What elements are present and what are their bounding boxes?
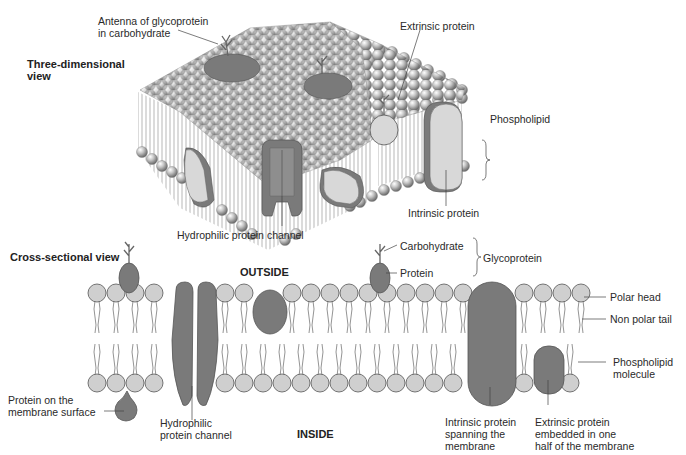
label-inside: INSIDE (297, 428, 334, 440)
label-extrinsic-cross-line2: embedded in one (535, 428, 616, 440)
cross-section-membrane (88, 238, 606, 421)
title-three-dimensional-line2: view (27, 70, 51, 82)
label-extrinsic-protein-3d: Extrinsic protein (400, 20, 475, 32)
label-channel-cross-line1: Hydrophilic (160, 417, 212, 429)
label-phospholipid-molecule-line1: Phospholipid (613, 356, 673, 368)
label-extrinsic-cross-line3: half of the membrane (535, 440, 634, 452)
label-carbohydrate: Carbohydrate (400, 240, 464, 252)
label-channel-cross-line2: protein channel (160, 429, 232, 441)
label-hydrophilic-channel-3d: Hydrophilic protein channel (177, 229, 304, 241)
extrinsic-protein-cross (534, 346, 564, 394)
label-antenna-line2: in carbohydrate (98, 27, 170, 39)
label-surface-protein-line1: Protein on the (8, 394, 73, 406)
label-polar-head: Polar head (610, 291, 661, 303)
surface-protein-cross (115, 391, 137, 421)
intrinsic-protein-cross (468, 282, 516, 406)
label-intrinsic-cross-line2: spanning the (445, 428, 505, 440)
label-surface-protein-line2: membrane surface (8, 406, 96, 418)
title-cross-sectional: Cross-sectional view (10, 251, 119, 263)
glycoprotein-cross-right (370, 244, 390, 293)
label-intrinsic-cross-line3: membrane (445, 440, 495, 452)
title-three-dimensional: Three-dimensional (27, 58, 125, 70)
channel-right-half (197, 282, 218, 406)
label-phospholipid-3d: Phospholipid (490, 113, 550, 125)
label-intrinsic-protein-3d: Intrinsic protein (408, 207, 479, 219)
label-protein: Protein (400, 267, 433, 279)
peripheral-protein-top (253, 290, 287, 334)
label-phospholipid-molecule-line2: molecule (613, 368, 655, 380)
label-intrinsic-cross-line1: Intrinsic protein (445, 416, 516, 428)
glycoprotein-cross-left (119, 242, 139, 293)
label-non-polar-tail: Non polar tail (610, 313, 672, 325)
label-outside: OUTSIDE (240, 266, 289, 278)
label-extrinsic-cross-line1: Extrinsic protein (535, 416, 610, 428)
label-antenna-line1: Antenna of glycoprotein (98, 15, 208, 27)
channel-left-half (172, 282, 193, 406)
label-glycoprotein: Glycoprotein (483, 252, 542, 264)
intrinsic-protein-3d (424, 102, 462, 192)
